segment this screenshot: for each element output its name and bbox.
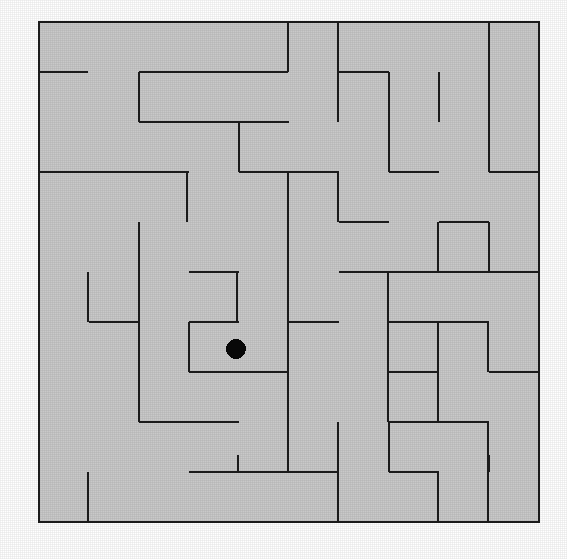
maze-canvas — [0, 0, 567, 559]
maze-figure — [0, 0, 567, 559]
maze-position-marker[interactable] — [226, 339, 246, 359]
